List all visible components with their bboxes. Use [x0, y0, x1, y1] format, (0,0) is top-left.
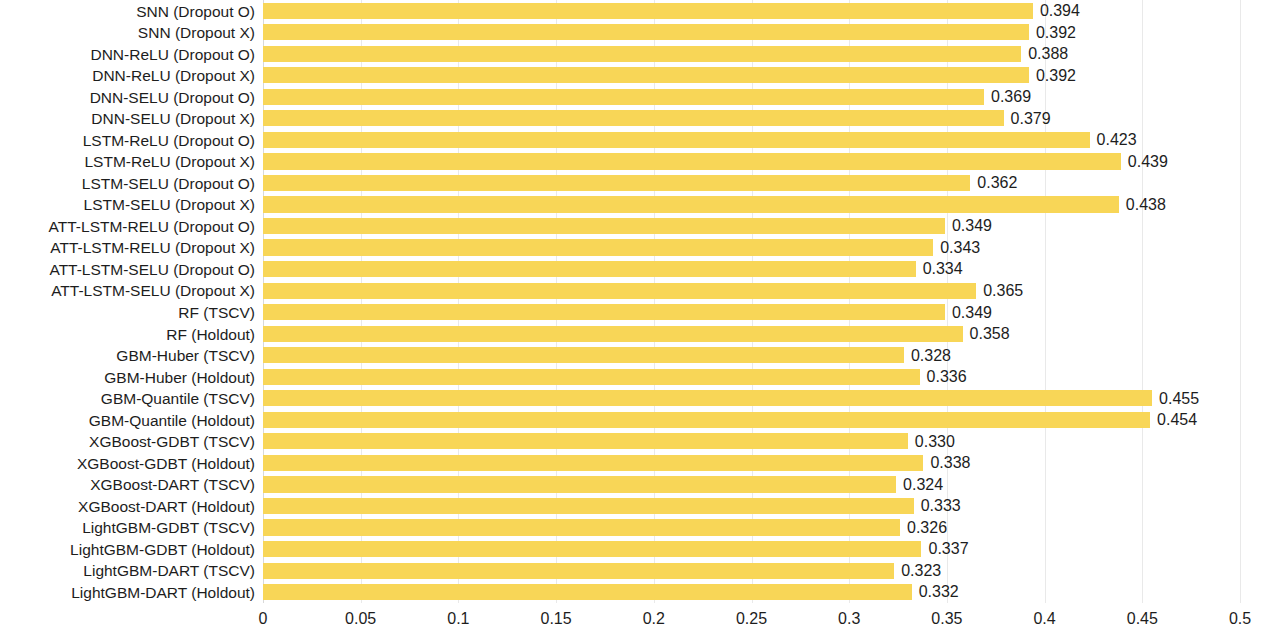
bar-row: 0.362 [263, 172, 1240, 194]
bar-value-label: 0.324 [903, 475, 943, 494]
bar-value-label: 0.362 [977, 173, 1017, 192]
bar-value-label: 0.394 [1040, 1, 1080, 20]
bar[interactable] [263, 261, 916, 277]
bar[interactable] [263, 89, 984, 105]
bar-value-label: 0.343 [940, 238, 980, 257]
category-label: GBM-Huber (TSCV) [0, 346, 255, 365]
category-label: GBM-Quantile (TSCV) [0, 389, 255, 408]
category-label: XGBoost-DART (TSCV) [0, 475, 255, 494]
category-label: RF (TSCV) [0, 303, 255, 322]
bar-value-label: 0.333 [921, 496, 961, 515]
bar[interactable] [263, 563, 894, 579]
bar-row: 0.439 [263, 151, 1240, 173]
x-tick-label: 0.15 [541, 610, 572, 628]
category-label: LSTM-SELU (Dropout X) [0, 195, 255, 214]
bar-row: 0.343 [263, 237, 1240, 259]
bar-row: 0.338 [263, 452, 1240, 474]
category-label: ATT-LSTM-SELU (Dropout X) [0, 281, 255, 300]
bar-row: 0.337 [263, 538, 1240, 560]
plot-area: 0.3940.3920.3880.3920.3690.3790.4230.439… [263, 0, 1240, 603]
bar[interactable] [263, 476, 896, 492]
category-label: DNN-ReLU (Dropout O) [0, 45, 255, 64]
gridline [1240, 0, 1241, 603]
bar-value-label: 0.326 [907, 518, 947, 537]
bar[interactable] [263, 519, 900, 535]
bar[interactable] [263, 218, 945, 234]
bar[interactable] [263, 412, 1150, 428]
bar-value-label: 0.334 [923, 259, 963, 278]
bar[interactable] [263, 132, 1090, 148]
bar[interactable] [263, 369, 920, 385]
bar-value-label: 0.392 [1036, 23, 1076, 42]
bar[interactable] [263, 347, 904, 363]
bar-value-label: 0.332 [919, 582, 959, 601]
bar-row: 0.336 [263, 366, 1240, 388]
category-label: SNN (Dropout O) [0, 2, 255, 21]
x-tick-label: 0.45 [1127, 610, 1158, 628]
x-tick-label: 0.3 [838, 610, 860, 628]
bar-row: 0.454 [263, 409, 1240, 431]
bar-value-label: 0.392 [1036, 66, 1076, 85]
bar[interactable] [263, 498, 914, 514]
category-label: XGBoost-DART (Holdout) [0, 497, 255, 516]
bar-value-label: 0.328 [911, 346, 951, 365]
bar[interactable] [263, 175, 970, 191]
bar-value-label: 0.358 [970, 324, 1010, 343]
bar[interactable] [263, 110, 1004, 126]
bar-row: 0.328 [263, 345, 1240, 367]
bar-row: 0.369 [263, 86, 1240, 108]
bar-value-label: 0.349 [952, 303, 992, 322]
category-label: LSTM-ReLU (Dropout O) [0, 131, 255, 150]
category-label: DNN-ReLU (Dropout X) [0, 66, 255, 85]
bar[interactable] [263, 153, 1121, 169]
bar-row: 0.326 [263, 517, 1240, 539]
bar[interactable] [263, 455, 923, 471]
bar-row: 0.358 [263, 323, 1240, 345]
bar-row: 0.323 [263, 560, 1240, 582]
bar[interactable] [263, 584, 912, 600]
bar-rows: 0.3940.3920.3880.3920.3690.3790.4230.439… [263, 0, 1240, 603]
bar[interactable] [263, 304, 945, 320]
x-tick-label: 0.2 [643, 610, 665, 628]
category-label: LightGBM-DART (TSCV) [0, 561, 255, 580]
bar[interactable] [263, 67, 1029, 83]
bar-row: 0.365 [263, 280, 1240, 302]
bar-row: 0.334 [263, 258, 1240, 280]
bar[interactable] [263, 3, 1033, 19]
category-label: DNN-SELU (Dropout X) [0, 109, 255, 128]
bar-value-label: 0.439 [1128, 152, 1168, 171]
bar-row: 0.392 [263, 22, 1240, 44]
category-label: ATT-LSTM-RELU (Dropout O) [0, 217, 255, 236]
x-tick-label: 0.1 [447, 610, 469, 628]
bar-value-label: 0.455 [1159, 389, 1199, 408]
bar-row: 0.392 [263, 65, 1240, 87]
bar[interactable] [263, 196, 1119, 212]
bar-row: 0.349 [263, 215, 1240, 237]
bar[interactable] [263, 283, 976, 299]
bar[interactable] [263, 390, 1152, 406]
category-label: DNN-SELU (Dropout O) [0, 88, 255, 107]
category-label: SNN (Dropout X) [0, 23, 255, 42]
bar-row: 0.324 [263, 474, 1240, 496]
bar-row: 0.332 [263, 581, 1240, 603]
bar-row: 0.455 [263, 388, 1240, 410]
bar-value-label: 0.349 [952, 216, 992, 235]
bar[interactable] [263, 433, 908, 449]
bar-value-label: 0.365 [983, 281, 1023, 300]
bar[interactable] [263, 326, 963, 342]
bar-value-label: 0.388 [1028, 44, 1068, 63]
bar-value-label: 0.337 [928, 539, 968, 558]
category-label: LightGBM-GDBT (TSCV) [0, 518, 255, 537]
bar-row: 0.438 [263, 194, 1240, 216]
bar-value-label: 0.330 [915, 432, 955, 451]
bar[interactable] [263, 541, 921, 557]
bar[interactable] [263, 239, 933, 255]
x-tick-label: 0 [259, 610, 268, 628]
bar[interactable] [263, 46, 1021, 62]
bar[interactable] [263, 24, 1029, 40]
x-tick-label: 0.05 [345, 610, 376, 628]
x-tick-label: 0.4 [1033, 610, 1055, 628]
bar-row: 0.330 [263, 431, 1240, 453]
category-label: ATT-LSTM-SELU (Dropout O) [0, 260, 255, 279]
bar-value-label: 0.423 [1097, 130, 1137, 149]
